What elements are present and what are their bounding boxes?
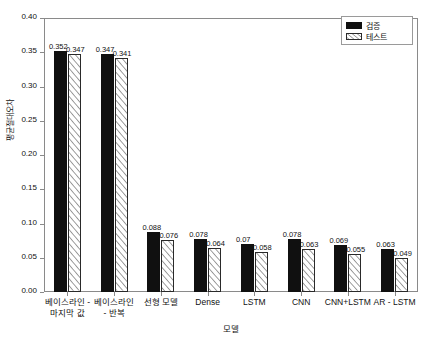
bar-value-validation: 0.078: [189, 230, 208, 239]
bar-value-validation: 0.088: [142, 223, 161, 232]
y-tick-mark: [40, 224, 44, 225]
bar-value-test: 0.049: [393, 249, 412, 258]
x-axis-title: 모델: [44, 322, 418, 334]
bar-value-test: 0.064: [206, 239, 225, 248]
y-tick-mark: [40, 87, 44, 88]
y-tick-mark: [40, 189, 44, 190]
legend-label-test: 테스트: [366, 31, 387, 42]
legend-label-validation: 검증: [366, 20, 380, 31]
bar-value-validation: 0.078: [283, 230, 302, 239]
x-tick-mark: [67, 292, 68, 296]
bar-value-validation: 0.07: [236, 235, 251, 244]
bar-value-validation: 0.069: [329, 236, 348, 245]
x-tick-mark: [114, 292, 115, 296]
bar-value-test: 0.076: [159, 231, 178, 240]
legend: 검증 테스트: [341, 16, 413, 45]
bar-validation: [101, 54, 114, 292]
y-tick-mark: [40, 18, 44, 19]
y-tick-mark: [40, 258, 44, 259]
x-tick-mark: [254, 292, 255, 296]
y-tick-label: 0.05: [21, 252, 37, 261]
y-tick-label: 0.40: [21, 12, 37, 21]
x-tick-mark: [395, 292, 396, 296]
bar-test: [115, 58, 128, 292]
x-tick-mark: [208, 292, 209, 296]
y-tick-label: 0.15: [21, 183, 37, 192]
y-tick-label: 0.10: [21, 218, 37, 227]
y-tick-label: 0.00: [21, 286, 37, 295]
legend-item-test: 테스트: [346, 31, 408, 41]
bar-value-test: 0.055: [346, 245, 365, 254]
bar-validation: [54, 51, 67, 292]
bar-test: [68, 54, 81, 292]
bar-value-test: 0.063: [300, 240, 319, 249]
y-tick-label: 0.25: [21, 115, 37, 124]
bar-test: [208, 248, 221, 292]
bar-validation: [147, 232, 160, 292]
bar-value-validation: 0.352: [49, 42, 68, 51]
x-tick-mark: [161, 292, 162, 296]
bar-test: [302, 249, 315, 292]
y-tick-mark: [40, 52, 44, 53]
y-tick-mark: [40, 121, 44, 122]
bar-test: [348, 254, 361, 292]
x-group-label-7: AR - LSTM: [367, 297, 422, 308]
hatched-swatch: [346, 33, 362, 40]
y-tick-mark: [40, 155, 44, 156]
y-axis-title: 평균절대오차: [4, 85, 15, 155]
bar-test: [255, 252, 268, 292]
bar-value-test: 0.058: [253, 243, 272, 252]
bar-value-test: 0.347: [66, 45, 85, 54]
bar-value-validation: 0.347: [96, 45, 115, 54]
bar-test: [161, 240, 174, 292]
solid-black-swatch: [346, 22, 362, 29]
bar-value-test: 0.341: [113, 49, 132, 58]
y-tick-label: 0.30: [21, 81, 37, 90]
y-tick-label: 0.35: [21, 46, 37, 55]
legend-item-validation: 검증: [346, 20, 408, 30]
x-tick-mark: [348, 292, 349, 296]
x-tick-mark: [301, 292, 302, 296]
bar-test: [395, 258, 408, 292]
bar-value-validation: 0.063: [376, 240, 395, 249]
bar-chart: 평균절대오차 0.000.050.100.150.200.250.300.350…: [0, 0, 428, 342]
y-tick-mark: [40, 292, 44, 293]
y-tick-label: 0.20: [21, 149, 37, 158]
